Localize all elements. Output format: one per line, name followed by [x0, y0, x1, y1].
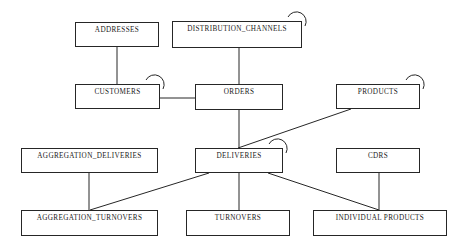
entity-box-distribution_channels[interactable]: DISTRIBUTION_CHANNELS	[172, 21, 302, 48]
entity-box-aggregation_deliveries[interactable]: AGGREGATION_DELIVERIES	[21, 148, 158, 173]
entity-label: INDIVIDUAL PRODUCTS	[336, 211, 424, 222]
relationship-line	[90, 173, 209, 210]
entity-label: DISTRIBUTION_CHANNELS	[187, 22, 287, 33]
entity-label: ORDERS	[224, 85, 254, 96]
entity-label: CUSTOMERS	[94, 85, 140, 96]
entity-label: PRODUCTS	[358, 85, 398, 96]
relationship-line	[268, 173, 379, 210]
entity-box-orders[interactable]: ORDERS	[195, 84, 283, 110]
entity-label: TURNOVERS	[215, 211, 261, 222]
entity-box-addresses[interactable]: ADDRESSES	[75, 22, 159, 47]
entity-label: AGGREGATION_TURNOVERS	[37, 211, 143, 222]
entity-label: DELIVERIES	[216, 149, 261, 160]
entity-box-products[interactable]: PRODUCTS	[336, 84, 420, 109]
er-diagram: ADDRESSESDISTRIBUTION_CHANNELSCUSTOMERSO…	[0, 0, 469, 252]
entity-label: AGGREGATION_DELIVERIES	[37, 149, 141, 160]
entity-label: CDRS	[368, 149, 388, 160]
entity-box-customers[interactable]: CUSTOMERS	[75, 84, 160, 109]
entity-box-aggregation_turnovers[interactable]: AGGREGATION_TURNOVERS	[21, 210, 158, 236]
entity-box-individual_products[interactable]: INDIVIDUAL PRODUCTS	[313, 210, 447, 236]
relationship-line	[238, 109, 351, 148]
entity-label: ADDRESSES	[95, 23, 139, 34]
entity-box-turnovers[interactable]: TURNOVERS	[186, 210, 290, 236]
entity-box-deliveries[interactable]: DELIVERIES	[195, 148, 283, 173]
entity-box-cdrs[interactable]: CDRS	[336, 148, 420, 173]
